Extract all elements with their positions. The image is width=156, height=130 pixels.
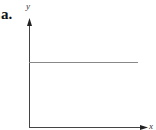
y-axis-arrow-icon xyxy=(27,18,32,26)
chart-plot xyxy=(0,0,156,130)
x-axis-arrow-icon xyxy=(140,125,148,130)
